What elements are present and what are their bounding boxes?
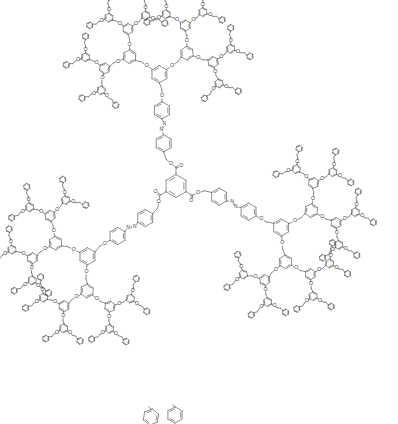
svg-text:O: O: [201, 1, 205, 7]
svg-text:O: O: [208, 11, 212, 17]
svg-text:O: O: [40, 286, 44, 292]
svg-text:O: O: [103, 240, 107, 246]
svg-text:N: N: [160, 126, 164, 132]
svg-text:O: O: [100, 17, 104, 23]
svg-text:O: O: [191, 16, 195, 22]
diagram-background: [0, 0, 398, 424]
svg-text:O: O: [30, 264, 34, 270]
svg-text:O: O: [84, 46, 88, 52]
svg-text:O: O: [280, 239, 284, 245]
svg-text:O: O: [144, 4, 148, 10]
svg-text:O: O: [263, 286, 267, 292]
svg-text:O: O: [157, 14, 161, 20]
svg-text:O: O: [354, 201, 358, 207]
svg-text:O: O: [101, 329, 105, 335]
svg-text:O: O: [72, 246, 76, 252]
svg-text:O: O: [179, 162, 183, 168]
svg-text:O: O: [185, 37, 189, 43]
svg-text:O: O: [107, 313, 111, 319]
svg-text:O: O: [164, 3, 168, 9]
figure-canvas: OONNOOOOOOOOOOOOOOOOOOOOOOOOOOOOOOOOONNO…: [0, 0, 398, 424]
svg-text:O: O: [63, 189, 67, 195]
svg-text:N: N: [234, 203, 238, 209]
svg-text:O: O: [295, 158, 299, 164]
svg-text:O: O: [39, 208, 43, 214]
svg-text:O: O: [9, 238, 13, 244]
svg-text:O: O: [170, 62, 174, 68]
svg-text:O: O: [151, 15, 155, 21]
svg-text:O: O: [344, 245, 348, 251]
svg-text:O: O: [92, 90, 96, 96]
svg-text:O: O: [84, 268, 88, 274]
svg-text:O: O: [52, 227, 56, 233]
svg-text:O: O: [61, 312, 65, 318]
svg-text:O: O: [157, 198, 161, 204]
svg-text:N: N: [162, 120, 166, 126]
svg-text:O: O: [334, 264, 338, 270]
svg-text:O: O: [135, 300, 139, 306]
svg-text:O: O: [55, 206, 59, 212]
svg-text:N: N: [133, 223, 137, 229]
svg-text:O: O: [107, 6, 111, 12]
svg-text:O: O: [235, 276, 239, 282]
svg-text:O: O: [236, 48, 240, 54]
svg-text:O: O: [175, 16, 179, 22]
svg-text:O: O: [212, 85, 216, 91]
svg-text:O: O: [360, 212, 364, 218]
svg-text:O: O: [338, 172, 342, 178]
svg-text:O: O: [114, 330, 118, 336]
svg-text:O: O: [105, 92, 109, 98]
svg-text:O: O: [239, 263, 243, 269]
svg-text:O: O: [311, 195, 315, 201]
svg-text:O: O: [71, 198, 75, 204]
svg-text:O: O: [329, 252, 333, 258]
svg-text:O: O: [272, 302, 276, 308]
svg-text:O: O: [304, 173, 308, 179]
svg-text:O: O: [320, 213, 324, 219]
svg-text:O: O: [128, 41, 132, 47]
svg-text:O: O: [189, 197, 193, 203]
svg-text:O: O: [196, 54, 200, 60]
svg-text:O: O: [76, 56, 80, 62]
svg-text:O: O: [318, 297, 322, 303]
svg-text:O: O: [3, 250, 7, 256]
svg-text:O: O: [22, 250, 26, 256]
svg-text:O: O: [253, 273, 257, 279]
svg-text:O: O: [160, 92, 164, 98]
svg-text:O: O: [21, 208, 25, 214]
svg-text:O: O: [219, 53, 223, 59]
svg-text:O: O: [320, 175, 324, 181]
svg-text:O: O: [53, 298, 57, 304]
svg-text:O: O: [259, 303, 263, 309]
svg-text:O: O: [27, 196, 31, 202]
svg-text:O: O: [101, 74, 105, 80]
svg-text:O: O: [343, 215, 347, 221]
svg-text:O: O: [131, 287, 135, 293]
svg-text:O: O: [332, 161, 336, 167]
svg-text:O: O: [23, 281, 27, 287]
svg-text:O: O: [259, 215, 263, 221]
svg-text:O: O: [305, 297, 309, 303]
svg-text:N: N: [126, 224, 130, 230]
svg-text:O: O: [94, 59, 98, 65]
svg-text:O: O: [36, 282, 40, 288]
svg-text:O: O: [55, 329, 59, 335]
svg-text:O: O: [294, 264, 298, 270]
svg-text:O: O: [118, 20, 122, 26]
svg-text:O: O: [213, 68, 217, 74]
svg-text:O: O: [154, 188, 158, 194]
svg-text:O: O: [335, 229, 339, 235]
svg-text:O: O: [117, 300, 121, 306]
svg-text:O: O: [95, 295, 99, 301]
svg-text:O: O: [229, 37, 233, 43]
svg-text:O: O: [74, 293, 78, 299]
svg-text:O: O: [134, 20, 138, 26]
svg-text:O: O: [293, 217, 297, 223]
svg-text:O: O: [317, 266, 321, 272]
svg-text:O: O: [145, 62, 149, 68]
svg-text:O: O: [43, 245, 47, 251]
svg-text:O: O: [274, 266, 278, 272]
svg-text:O: O: [169, 160, 173, 166]
svg-text:O: O: [35, 298, 39, 304]
svg-text:O: O: [309, 280, 313, 286]
